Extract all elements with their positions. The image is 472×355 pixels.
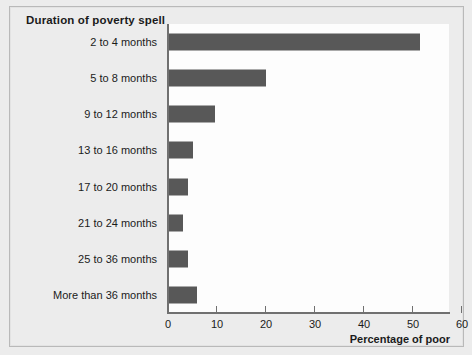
y-axis-line: [167, 24, 169, 314]
bar: [168, 34, 420, 51]
category-label: More than 36 months: [53, 289, 157, 301]
category-label: 2 to 4 months: [90, 36, 157, 48]
x-tick: [265, 306, 266, 313]
bar: [168, 250, 188, 267]
category-label: 5 to 8 months: [90, 72, 157, 84]
category-label: 17 to 20 months: [78, 181, 157, 193]
x-tick-label: 60: [456, 318, 468, 330]
bar: [168, 178, 188, 195]
x-tick: [461, 306, 462, 313]
x-tick-label: 0: [165, 318, 171, 330]
x-tick-label: 30: [309, 318, 321, 330]
plot-area: [168, 24, 449, 313]
figure: Duration of poverty spell 2 to 4 months5…: [0, 0, 472, 355]
x-axis-line: [167, 312, 450, 314]
category-label: 25 to 36 months: [78, 253, 157, 265]
bar: [168, 142, 193, 159]
bar: [168, 70, 266, 87]
category-label: 9 to 12 months: [84, 108, 157, 120]
category-axis-labels: 2 to 4 months5 to 8 months9 to 12 months…: [10, 24, 163, 313]
x-tick: [412, 306, 413, 313]
bar: [168, 214, 183, 231]
x-tick-label: 20: [260, 318, 272, 330]
x-tick: [216, 306, 217, 313]
x-tick: [167, 306, 168, 313]
x-axis-title: Percentage of poor: [350, 333, 450, 345]
x-tick-label: 50: [407, 318, 419, 330]
category-label: 13 to 16 months: [78, 144, 157, 156]
x-tick-label: 10: [211, 318, 223, 330]
bar: [168, 286, 197, 303]
x-tick: [314, 306, 315, 313]
x-tick: [363, 306, 364, 313]
category-label: 21 to 24 months: [78, 217, 157, 229]
x-tick-label: 40: [358, 318, 370, 330]
bar: [168, 106, 215, 123]
